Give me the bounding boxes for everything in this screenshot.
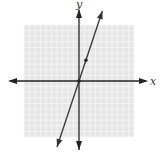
line-down-arrow-icon <box>57 138 63 147</box>
plotted-point <box>84 59 88 63</box>
x-axis-right-arrow-icon <box>139 78 148 84</box>
plotted-point <box>77 79 81 83</box>
y-axis-label: y <box>75 0 83 11</box>
x-axis-label: x <box>150 75 157 88</box>
y-axis-down-arrow-icon <box>76 141 82 150</box>
x-axis-left-arrow-icon <box>8 78 17 84</box>
line-up-arrow-icon <box>97 11 103 20</box>
coordinate-plane: x y <box>0 0 163 156</box>
